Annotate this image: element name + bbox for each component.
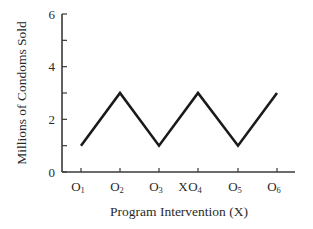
x-axis: O1O2O3O4O5O6X [62, 168, 295, 195]
x-tick-label: O6 [267, 179, 281, 195]
plot-area [81, 93, 277, 146]
y-tick-label: 6 [49, 7, 56, 22]
x-tick-label: O1 [71, 179, 85, 195]
line-chart: 0246 O1O2O3O4O5O6X Millions of Condoms S… [0, 0, 313, 229]
y-tick-label: 0 [49, 165, 56, 180]
intervention-marker: X [178, 179, 188, 194]
y-axis-title: Millions of Condoms Sold [14, 21, 29, 165]
y-tick-label: 4 [49, 59, 56, 74]
x-tick-label: O3 [149, 179, 163, 195]
y-axis: 0246 [49, 7, 68, 180]
x-tick-label: O5 [228, 179, 242, 195]
x-tick-label: O2 [110, 179, 124, 195]
x-tick-label: O4 [188, 179, 202, 195]
x-axis-title: Program Intervention (X) [110, 204, 248, 219]
data-line [81, 93, 277, 146]
y-tick-label: 2 [49, 112, 56, 127]
